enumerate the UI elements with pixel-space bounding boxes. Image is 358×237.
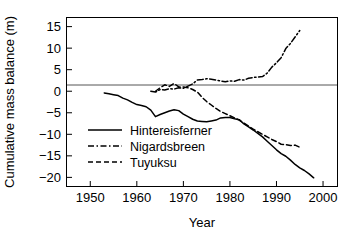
figure-container: 195019601970198019902000 151050−5−10−15−… <box>0 0 358 237</box>
y-tick-label: 10 <box>47 41 61 56</box>
x-axis-title: Year <box>189 215 216 230</box>
cumulative-mass-balance-chart: 195019601970198019902000 151050−5−10−15−… <box>0 0 358 237</box>
y-tick-label: −20 <box>39 170 61 185</box>
x-axis-tick-labels: 195019601970198019902000 <box>76 190 338 205</box>
y-axis-tick-labels: 151050−5−10−15−20 <box>39 19 61 185</box>
x-tick-label: 1970 <box>169 190 198 205</box>
x-tick-label: 1960 <box>122 190 151 205</box>
plot-frame <box>67 18 338 187</box>
x-tick-label: 1990 <box>262 190 291 205</box>
y-tick-label: 5 <box>54 62 61 77</box>
x-tick-label: 2000 <box>309 190 338 205</box>
y-axis-title: Cumulative mass balance (m) <box>2 16 17 188</box>
y-tick-label: −5 <box>46 105 61 120</box>
y-tick-label: −10 <box>39 127 61 142</box>
x-tick-label: 1980 <box>215 190 244 205</box>
legend-label-hintereisferner: Hintereisferner <box>130 124 212 138</box>
x-tick-label: 1950 <box>76 190 105 205</box>
y-tick-label: 0 <box>54 84 61 99</box>
legend-label-nigardsbreen: Nigardsbreen <box>130 140 205 154</box>
y-tick-label: −15 <box>39 148 61 163</box>
y-tick-label: 15 <box>47 19 61 34</box>
legend-label-tuyuksu: Tuyuksu <box>130 156 177 170</box>
